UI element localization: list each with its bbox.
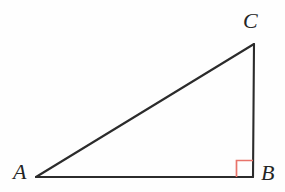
geometry-figure: A B C [0, 0, 285, 192]
triangle-side-vertical-bc [253, 44, 254, 177]
triangle-side-hypotenuse-ca [36, 44, 254, 177]
vertex-label-c: C [243, 10, 258, 32]
right-angle-marker-icon [237, 161, 254, 178]
vertex-label-b: B [261, 162, 274, 184]
vertex-label-a: A [13, 161, 26, 183]
